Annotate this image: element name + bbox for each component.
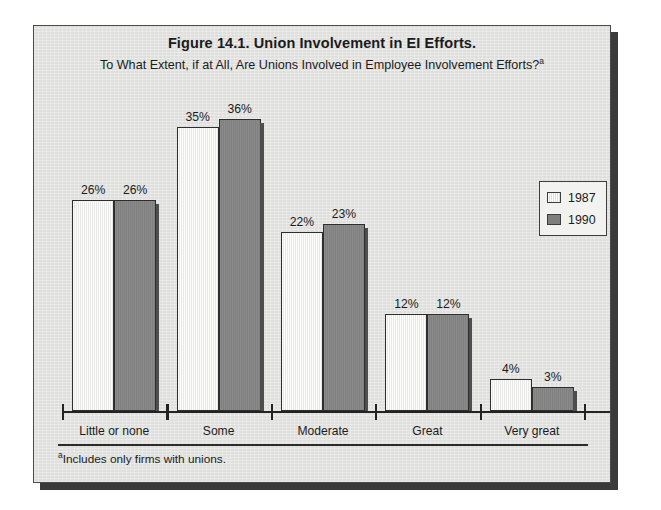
figure-frame: Figure 14.1. Union Involvement in EI Eff… (33, 25, 611, 483)
x-axis-line (62, 411, 611, 413)
chart-title: Figure 14.1. Union Involvement in EI Eff… (34, 34, 610, 52)
category-label: Moderate (271, 424, 375, 438)
bar-1987-moderate[interactable] (281, 232, 323, 411)
axis-tick (375, 404, 377, 420)
bar-wrapper: 22% (281, 232, 323, 411)
bar-1990-great[interactable] (427, 314, 469, 412)
bar-1990-very-great[interactable] (532, 387, 574, 411)
bar-wrapper: 12% (427, 314, 469, 412)
bar-1990-little-or-none[interactable] (114, 200, 156, 411)
bar-value-label: 3% (544, 370, 562, 384)
subtitle-superscript-marker: a (539, 56, 544, 66)
chart-subtitle-text: To What Extent, if at All, Are Unions In… (100, 58, 539, 72)
footnote: aIncludes only firms with unions. (58, 452, 226, 466)
bar-1987-very-great[interactable] (490, 379, 532, 412)
bar-group: 35%36% (166, 86, 270, 411)
axis-tick (480, 404, 482, 420)
footnote-divider (58, 444, 588, 446)
category-label: Some (166, 424, 270, 438)
bar-1987-little-or-none[interactable] (72, 200, 114, 411)
bar-group: 26%26% (62, 86, 166, 411)
bar-value-label: 12% (436, 297, 460, 311)
category-label: Very great (480, 424, 584, 438)
bar-group: 22%23% (271, 86, 375, 411)
bar-wrapper: 23% (323, 224, 365, 411)
bar-1987-great[interactable] (385, 314, 427, 412)
bar-group: 4%3% (480, 86, 584, 411)
axis-tick (166, 404, 168, 420)
bar-wrapper: 36% (219, 119, 261, 412)
bar-value-label: 22% (290, 215, 314, 229)
bar-value-label: 35% (185, 110, 209, 124)
plot-area: 26%26%35%36%22%23%12%12%4%3% (62, 86, 584, 411)
category-label: Great (375, 424, 479, 438)
bar-value-label: 12% (394, 297, 418, 311)
bar-wrapper: 35% (177, 127, 219, 411)
bar-value-label: 26% (123, 183, 147, 197)
x-axis (62, 411, 611, 412)
title-block: Figure 14.1. Union Involvement in EI Eff… (34, 34, 610, 74)
axis-tick (271, 404, 273, 420)
bar-wrapper: 4% (490, 379, 532, 412)
bar-1990-some[interactable] (219, 119, 261, 412)
footnote-text: Includes only firms with unions. (63, 452, 226, 466)
page-canvas: Figure 14.1. Union Involvement in EI Eff… (0, 0, 661, 510)
axis-tick (584, 404, 586, 420)
category-labels: Little or noneSomeModerateGreatVery grea… (62, 424, 584, 438)
bar-wrapper: 3% (532, 387, 574, 411)
bar-wrapper: 26% (72, 200, 114, 411)
bar-wrapper: 12% (385, 314, 427, 412)
chart-subtitle: To What Extent, if at All, Are Unions In… (34, 56, 610, 74)
bar-wrapper: 26% (114, 200, 156, 411)
bar-groups: 26%26%35%36%22%23%12%12%4%3% (62, 86, 584, 411)
axis-tick (62, 404, 64, 420)
bar-1987-some[interactable] (177, 127, 219, 411)
bar-group: 12%12% (375, 86, 479, 411)
bar-value-label: 4% (502, 362, 520, 376)
bar-value-label: 26% (81, 183, 105, 197)
bar-1990-moderate[interactable] (323, 224, 365, 411)
bar-value-label: 23% (332, 207, 356, 221)
category-label: Little or none (62, 424, 166, 438)
bar-value-label: 36% (227, 102, 251, 116)
